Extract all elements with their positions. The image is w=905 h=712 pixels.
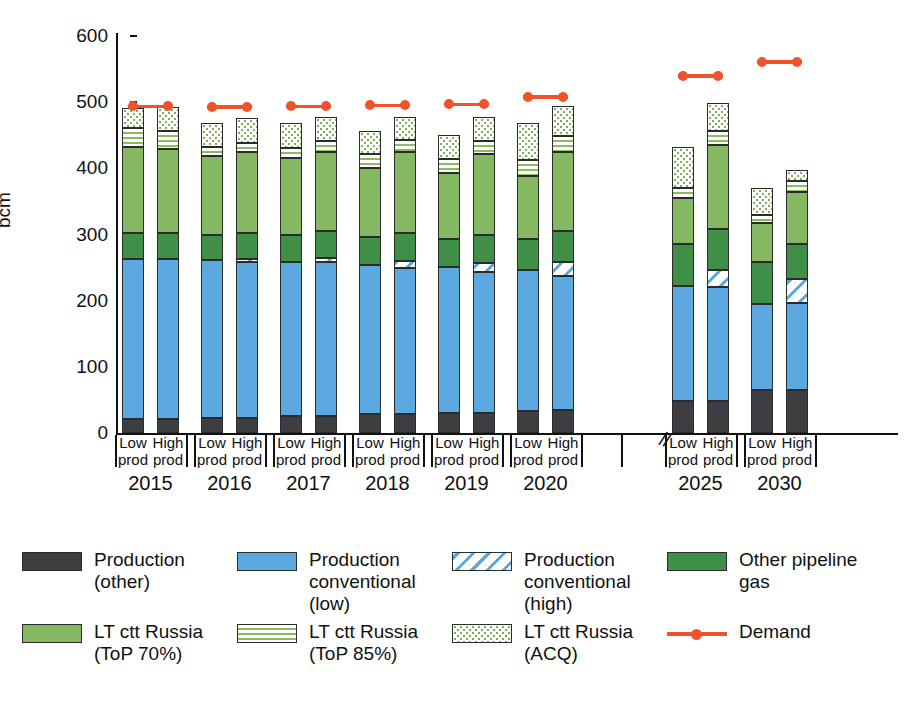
demand-point: [321, 101, 331, 111]
legend-label: LT ctt Russia(ToP 70%): [94, 621, 239, 665]
demand-marker: [444, 99, 489, 109]
bar-segment-lt-top70: [672, 198, 694, 244]
legend-lt-ctt-russia-top70[interactable]: LT ctt Russia(ToP 70%): [22, 621, 237, 677]
legend-other-pipeline-gas[interactable]: Other pipelinegas: [667, 549, 882, 605]
legend-label: Demand: [739, 621, 884, 643]
bar-stack: [473, 432, 495, 433]
bar-segment-lt-top70: [438, 173, 460, 239]
x-axis-year-label: 2020: [506, 472, 586, 495]
bar-segment-lt-acq: [394, 117, 416, 139]
plot-area: 0100200300400500600 bcm LowprodHighprodL…: [0, 0, 905, 540]
bar-segment-prod-conv-low: [122, 259, 144, 419]
bar-segment-other-pipeline: [122, 233, 144, 259]
legend-lt-ctt-russia-top85[interactable]: LT ctt Russia(ToP 85%): [237, 621, 452, 677]
scenario-label-line2: prod: [225, 452, 269, 467]
scenario-label-line1: High: [225, 435, 269, 450]
legend-swatch: [237, 552, 297, 571]
bar-segment-other-pipeline: [201, 235, 223, 261]
demand-point: [286, 101, 296, 111]
legend-label-line: LT ctt Russia: [524, 621, 669, 643]
legend-swatch-demand: [667, 624, 727, 643]
legend-label-line: Production: [524, 549, 669, 571]
legend-label-line: (other): [94, 571, 239, 593]
x-axis-scenario-label-high: Highprod: [696, 435, 740, 467]
bar-stack: [236, 432, 258, 433]
scenario-label-line2: prod: [541, 452, 585, 467]
x-axis-group-box: LowprodHighprodLowprodHighprodLowprodHig…: [116, 435, 898, 467]
x-axis-scenario-label-high: Highprod: [462, 435, 506, 467]
legend-label-line: (low): [309, 593, 454, 615]
legend-label: Productionconventional(low): [309, 549, 454, 615]
x-axis-scenario-label-high: Highprod: [304, 435, 348, 467]
bar-segment-other-pipeline: [672, 244, 694, 286]
bar-segment-prod-conv-low: [359, 265, 381, 415]
bar-segment-lt-top70: [394, 152, 416, 233]
bar-segment-prod-conv-low: [394, 268, 416, 415]
bar-segment-prod-other: [236, 418, 258, 433]
bar-segment-lt-top85: [517, 160, 539, 177]
bar-stack: [438, 432, 460, 433]
demand-point: [365, 100, 375, 110]
legend-label: LT ctt Russia(ToP 85%): [309, 621, 454, 665]
bar-segment-lt-top85: [201, 147, 223, 156]
y-axis-title: bcm: [0, 192, 15, 228]
demand-point: [444, 99, 454, 109]
x-axis-year-label: 2025: [661, 472, 741, 495]
bar-segment-other-pipeline: [517, 239, 539, 270]
bar-segment-lt-top70: [201, 156, 223, 234]
bar-segment-prod-other: [157, 419, 179, 433]
bar-segment-lt-top85: [280, 148, 302, 159]
bar-segment-prod-conv-low: [473, 272, 495, 412]
legend-swatch: [237, 624, 297, 643]
scenario-label-line2: prod: [383, 452, 427, 467]
bar-segment-other-pipeline: [707, 229, 729, 270]
bar-segment-other-pipeline: [438, 239, 460, 267]
bar-segment-lt-top70: [751, 223, 773, 261]
x-axis-scenario-label-high: Highprod: [225, 435, 269, 467]
y-axis-line: [116, 33, 118, 434]
bar-segment-prod-other: [517, 411, 539, 433]
legend-swatch: [452, 624, 512, 643]
bar-segment-prod-other: [473, 413, 495, 434]
bar-stack: [201, 432, 223, 433]
bar-segment-lt-top70: [122, 147, 144, 233]
bar-stack: [359, 432, 381, 433]
demand-marker: [207, 102, 252, 112]
bar-segment-prod-other: [201, 418, 223, 433]
bar-segment-lt-top70: [315, 152, 337, 231]
legend-demand[interactable]: Demand: [667, 621, 882, 677]
x-axis-year-label: 2030: [740, 472, 820, 495]
bar-segment-prod-other: [707, 401, 729, 433]
demand-point: [207, 102, 217, 112]
legend-lt-ctt-russia-acq[interactable]: LT ctt Russia(ACQ): [452, 621, 667, 677]
bar-segment-lt-top85: [786, 181, 808, 192]
bar-segment-lt-top70: [236, 152, 258, 233]
x-axis-scenario-label-high: Highprod: [775, 435, 819, 467]
bar-segment-lt-acq: [707, 103, 729, 131]
bar-stack: [707, 432, 729, 433]
legend-production-conventional-high[interactable]: Productionconventional(high): [452, 549, 667, 605]
legend-label: Production(other): [94, 549, 239, 593]
bar-segment-other-pipeline: [236, 233, 258, 259]
bar-segment-lt-top85: [438, 159, 460, 173]
bar-segment-lt-acq: [359, 131, 381, 155]
chart-figure: 0100200300400500600 bcm LowprodHighprodL…: [0, 0, 905, 712]
demand-point: [479, 99, 489, 109]
legend-production-conventional-low[interactable]: Productionconventional(low): [237, 549, 452, 605]
bar-segment-lt-top85: [672, 188, 694, 199]
x-axis-group-separator: [621, 435, 623, 467]
x-axis-year-label: 2016: [190, 472, 270, 495]
y-axis-tick: [130, 35, 137, 37]
legend-swatch: [452, 552, 512, 571]
x-axis-scenario-label-high: Highprod: [383, 435, 427, 467]
x-axis-year-label: 2019: [427, 472, 507, 495]
bar-segment-prod-conv-low: [552, 276, 574, 410]
legend-production-other[interactable]: Production(other): [22, 549, 237, 605]
scenario-label-line2: prod: [696, 452, 740, 467]
bar-segment-other-pipeline: [315, 231, 337, 258]
bar-segment-lt-top85: [473, 141, 495, 154]
scenario-label-line1: High: [541, 435, 585, 450]
bar-segment-lt-top70: [552, 152, 574, 231]
y-axis-tick-label: 0: [46, 423, 108, 442]
bar-segment-lt-top70: [517, 176, 539, 239]
